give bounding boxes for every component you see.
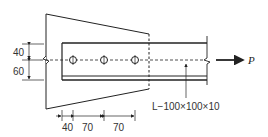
dim-end-distance: 40 xyxy=(62,122,74,133)
bottom-dimensions xyxy=(56,110,135,121)
dim-gauge-remaining: 60 xyxy=(13,66,25,77)
break-symbol-left xyxy=(43,56,49,64)
left-dimensions xyxy=(22,44,44,80)
connection-diagram: P 40 60 40 70 70 L−100×100×10 xyxy=(0,0,268,137)
dim-pitch-1: 70 xyxy=(82,122,94,133)
load-label: P xyxy=(247,54,255,66)
dim-edge-distance-vertical: 40 xyxy=(13,47,25,58)
bolt-holes xyxy=(70,55,139,65)
member-label: L−100×100×10 xyxy=(152,101,220,112)
dim-pitch-2: 70 xyxy=(113,122,125,133)
